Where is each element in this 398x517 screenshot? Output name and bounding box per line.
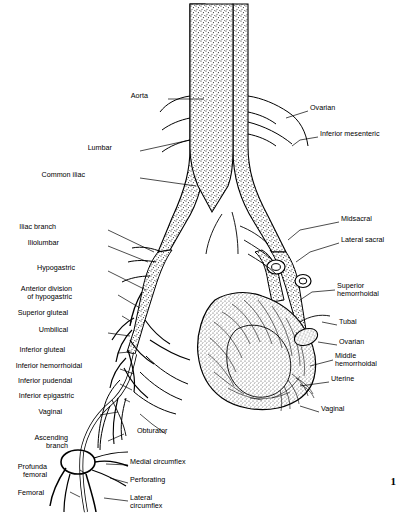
label-hypogastric: Hypogastric xyxy=(0,264,75,272)
label-profunda-femoral: Profunda femoral xyxy=(0,463,47,480)
label-umbilical: Umbilical xyxy=(0,326,68,334)
label-middle-hemorrhoidal: Middle hemorrhoidal xyxy=(335,352,397,369)
label-tubal: Tubal xyxy=(339,318,389,326)
label-aorta: Aorta xyxy=(48,92,148,100)
label-common-iliac: Common iliac xyxy=(0,171,85,179)
label-iliac-branch: Iliac branch xyxy=(0,223,56,231)
label-ovarian-left: Ovarian xyxy=(310,104,396,112)
label-femoral: Lateral circumflex xyxy=(130,494,190,511)
label-medial-circumflex: Medial circumflex xyxy=(130,458,210,466)
label-superior-hemorrhoidal: Superior hemorrhoidal xyxy=(337,282,398,299)
label-uterine: Uterine xyxy=(331,375,386,383)
anatomical-illustration: Aorta Ovarian Inferior mesenteric Lumbar… xyxy=(0,0,398,517)
label-anterior-division-of-hypogastric: Anterior division of hypogastric xyxy=(0,285,72,302)
label-inferior-mesenteric: Inferior mesenteric xyxy=(320,130,398,138)
label-vaginal-right: Vaginal xyxy=(321,405,376,413)
label-inferior-hemorrhoidal: Inferior hemorrhoidal xyxy=(0,362,82,370)
label-iliolumbar: Iliolumbar xyxy=(0,239,59,247)
uterus-and-adnexa xyxy=(198,293,330,411)
label-superior-gluteal: Superior gluteal xyxy=(0,309,68,317)
label-ovarian-right: Ovarian xyxy=(339,338,391,346)
label-inferior-pudendal: Inferior pudendal xyxy=(0,377,72,385)
label-lateral-sacral: Lateral sacral xyxy=(341,236,398,244)
label-midsacral: Midsacral xyxy=(341,215,398,223)
label-inferior-epigastric: Inferior epigastric xyxy=(0,392,74,400)
label-obturator: Obturator xyxy=(137,427,197,435)
label-lumbar: Lumbar xyxy=(12,144,112,152)
label-vaginal-left: Vaginal xyxy=(0,408,62,416)
label-inferior-gluteal: Inferior gluteal xyxy=(0,346,65,354)
label-lateral-circumflex: Femoral xyxy=(0,489,44,497)
label-ascending-branch: Ascending branch xyxy=(0,434,68,451)
label-perforating: Perforating xyxy=(130,476,200,484)
page-number: 1 xyxy=(391,475,397,487)
